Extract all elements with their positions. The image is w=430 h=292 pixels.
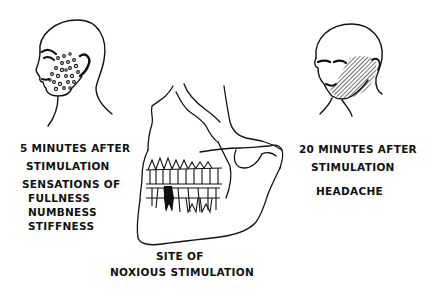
site-caption-line2: NOXIOUS STIMULATION [110, 266, 254, 279]
left-head-illustration [36, 20, 112, 126]
stimulated-tooth [164, 186, 174, 212]
sensation-fullness: FULLNESS [28, 192, 90, 205]
right-time-label-line1: 20 MINUTES AFTER [299, 143, 417, 156]
left-time-label-line2: STIMULATION [26, 160, 110, 173]
sensation-numbness: NUMBNESS [28, 206, 97, 219]
headache-label: HEADACHE [316, 185, 383, 198]
upper-teeth [146, 158, 222, 184]
headache-hatched-area [330, 56, 377, 99]
left-time-label-line1: 5 MINUTES AFTER [20, 142, 130, 155]
site-caption-line1: SITE OF [156, 250, 204, 263]
lower-teeth [146, 188, 220, 212]
sensation-heading: SENSATIONS OF [22, 178, 120, 191]
right-time-label-line2: STIMULATION [311, 161, 395, 174]
sensation-stiffness: STIFFNESS [28, 220, 94, 233]
